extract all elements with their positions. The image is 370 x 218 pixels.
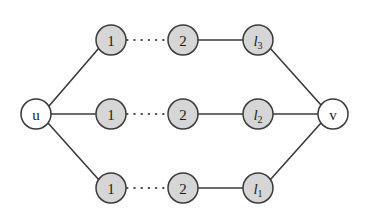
- node-top-1-label: 1: [107, 33, 115, 49]
- node-bottom-1-label: 1: [107, 181, 115, 197]
- edge-u-to-top-1: [49, 48, 99, 106]
- node-bottom-1[interactable]: 1: [96, 173, 126, 203]
- node-u-label: u: [32, 107, 40, 123]
- node-middle-1-label: 1: [107, 107, 115, 123]
- graph-figure: u 1 2 l3 1 2: [0, 0, 370, 218]
- graph-canvas: u 1 2 l3 1 2: [0, 0, 370, 218]
- node-bottom-l1[interactable]: l1: [243, 173, 273, 203]
- node-top-2[interactable]: 2: [168, 25, 198, 55]
- node-u[interactable]: u: [21, 99, 51, 129]
- node-top-1[interactable]: 1: [96, 25, 126, 55]
- edge-bottom-l1-to-v: [270, 123, 321, 180]
- node-top-2-label: 2: [179, 33, 187, 49]
- node-bottom-2-label: 2: [179, 181, 187, 197]
- node-middle-2-label: 2: [179, 107, 187, 123]
- node-v-label: v: [329, 107, 337, 123]
- node-middle-l2[interactable]: l2: [243, 99, 273, 129]
- edge-u-to-bottom-1: [48, 123, 99, 180]
- node-middle-2[interactable]: 2: [168, 99, 198, 129]
- node-bottom-2[interactable]: 2: [168, 173, 198, 203]
- node-top-l3[interactable]: l3: [243, 25, 273, 55]
- node-middle-1[interactable]: 1: [96, 99, 126, 129]
- node-v[interactable]: v: [318, 99, 348, 129]
- edge-top-l3-to-v: [270, 48, 321, 105]
